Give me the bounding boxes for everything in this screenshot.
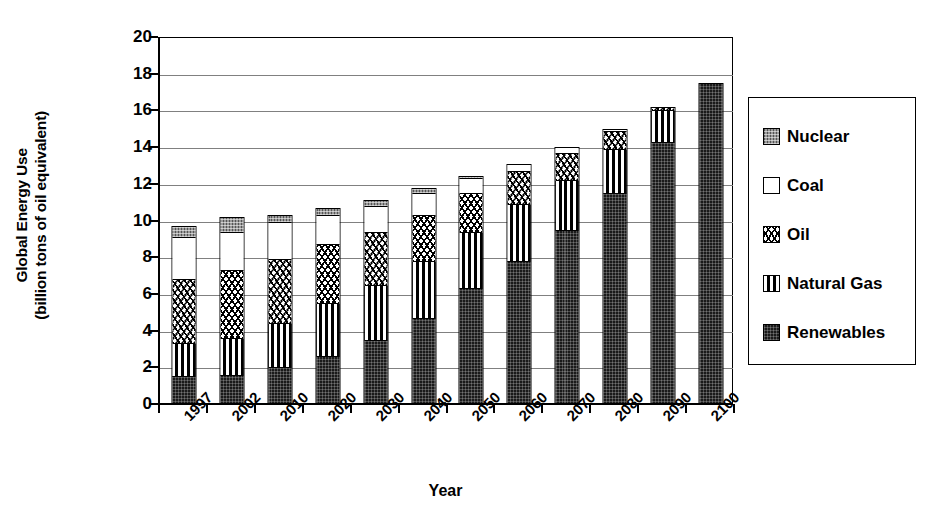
bar-segment-natural-gas [220,339,243,376]
bar-group[interactable] [304,38,352,404]
bar-segment-coal [316,216,339,245]
bar-segment-oil [460,194,483,233]
legend-item-natural-gas[interactable]: Natural Gas [763,259,915,308]
stacked-bar[interactable] [267,215,292,404]
legend-item-oil[interactable]: Oil [763,210,915,259]
bar-group[interactable] [543,38,591,404]
bar-segment-natural-gas [604,150,627,194]
stacked-bar[interactable] [411,188,436,404]
bar-group[interactable] [160,38,208,404]
bar-group[interactable] [256,38,304,404]
legend-label: Renewables [787,323,885,343]
stacked-bar[interactable] [603,129,628,404]
legend-swatch-icon [763,226,780,243]
bar-segment-nuclear [268,216,291,223]
bar-group[interactable] [448,38,496,404]
bar-group[interactable] [495,38,543,404]
y-axis-tick-label: 10 [110,211,152,231]
bar-segment-natural-gas [460,233,483,290]
bar-segment-natural-gas [508,205,531,262]
legend-swatch-icon [763,324,780,341]
bar-segment-natural-gas [412,262,435,319]
bar-group[interactable] [208,38,256,404]
legend-swatch-icon [763,128,780,145]
bar-segment-renewables [412,319,435,405]
y-axis-tick-label: 16 [110,100,152,120]
bar-segment-natural-gas [652,111,675,142]
y-axis-tick-label: 18 [110,64,152,84]
stacked-bar[interactable] [315,208,340,404]
bar-group[interactable] [639,38,687,404]
bar-segment-renewables [460,289,483,405]
legend-item-nuclear[interactable]: Nuclear [763,112,915,161]
bar-segment-renewables [508,262,531,405]
bar-segment-coal [412,194,435,216]
bar-group[interactable] [352,38,400,404]
y-axis-tick-label: 8 [110,247,152,267]
bar-segment-oil [604,132,627,150]
legend-label: Coal [787,176,824,196]
stacked-bar[interactable] [219,217,244,404]
bar-segment-natural-gas [268,324,291,368]
bar-segment-natural-gas [316,304,339,357]
stacked-bar[interactable] [555,147,580,404]
bar-segment-natural-gas [364,286,387,341]
bar-segment-natural-gas [556,181,579,231]
y-axis-tick-label: 20 [110,27,152,47]
y-axis-tick-mark [149,36,158,38]
bar-segment-renewables [700,84,723,405]
y-axis-tick-mark [149,403,158,405]
bar-segment-oil [268,260,291,324]
x-axis-title: Year [158,482,733,500]
bar-segment-coal [460,179,483,194]
stacked-bar[interactable] [699,83,724,404]
y-axis-tick-label: 4 [110,321,152,341]
bar-segment-oil [220,271,243,339]
energy-use-stacked-bar-chart: Global Energy Use (billion tons of oil e… [0,0,930,517]
bar-segment-oil [316,245,339,304]
y-axis-tick-mark [149,256,158,258]
bar-segment-oil [172,280,195,344]
bar-segment-renewables [604,194,627,405]
stacked-bar[interactable] [171,226,196,404]
stacked-bar[interactable] [507,164,532,404]
bar-segment-renewables [652,143,675,405]
legend-swatch-icon [763,177,780,194]
plot-area [158,37,733,404]
legend-label: Nuclear [787,127,849,147]
stacked-bar[interactable] [651,107,676,404]
chart-legend: NuclearCoalOilNatural GasRenewables [748,97,916,365]
y-axis-tick-label: 0 [110,394,152,414]
bar-segment-nuclear [220,218,243,233]
bar-segment-coal [220,233,243,272]
legend-item-renewables[interactable]: Renewables [763,308,915,357]
y-axis-tick-mark [149,330,158,332]
y-axis-tick-label: 12 [110,174,152,194]
bar-segment-coal [268,223,291,260]
y-axis-tick-label: 2 [110,357,152,377]
bar-segment-oil [508,172,531,205]
bar-group[interactable] [591,38,639,404]
bar-group[interactable] [400,38,448,404]
bar-segment-nuclear [316,209,339,216]
stacked-bar[interactable] [363,200,388,404]
bar-group[interactable] [687,38,735,404]
y-axis-tick-label: 14 [110,137,152,157]
y-axis-title-line2: (billion tons of oil equivalent) [31,111,50,320]
bar-segment-oil [556,154,579,182]
bar-series-container [160,38,733,404]
bar-segment-renewables [556,231,579,405]
bar-segment-coal [508,165,531,172]
y-axis-tick-mark [149,366,158,368]
legend-label: Oil [787,225,810,245]
stacked-bar[interactable] [459,176,484,404]
y-axis-title-line1: Global Energy Use [13,148,30,282]
bar-segment-oil [364,233,387,286]
y-axis-tick-labels: 02468101214161820 [104,37,152,404]
legend-swatch-icon [763,275,780,292]
legend-item-coal[interactable]: Coal [763,161,915,210]
y-axis-tick-mark [149,73,158,75]
bar-segment-renewables [364,341,387,405]
x-axis-tick-labels: 1997200220102020203020402050206020702080… [158,412,733,482]
y-axis-tick-mark [149,293,158,295]
